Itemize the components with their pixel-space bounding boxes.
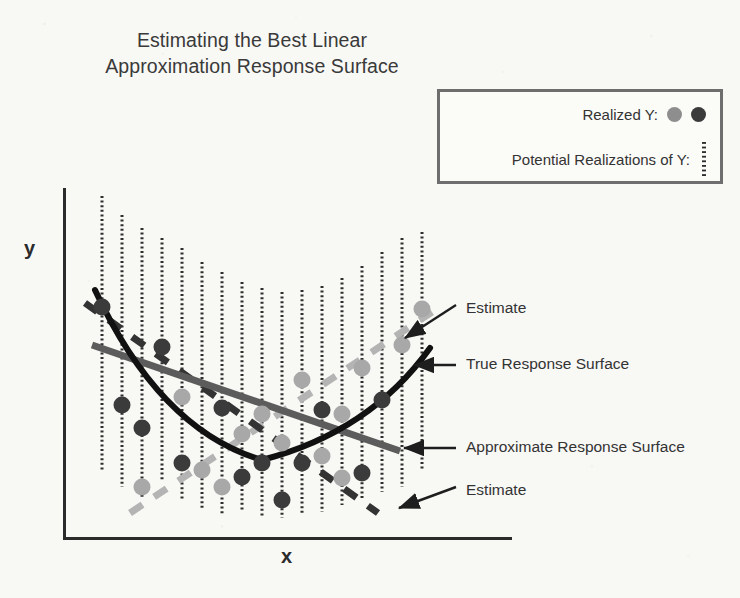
annotation-approximate-response-surface: Approximate Response Surface — [466, 438, 685, 456]
y-axis-label: y — [24, 237, 35, 260]
plot-canvas — [0, 0, 740, 598]
annotation-arrows — [399, 305, 456, 508]
annotation-true-response-surface: True Response Surface — [466, 355, 629, 373]
x-axis-label: x — [281, 545, 292, 568]
annotation-estimate-lower: Estimate — [466, 481, 526, 499]
annotation-estimate-upper: Estimate — [466, 299, 526, 317]
figure-root: Estimating the Best Linear Approximation… — [0, 0, 740, 598]
arrow-estimate-lower — [399, 487, 456, 508]
